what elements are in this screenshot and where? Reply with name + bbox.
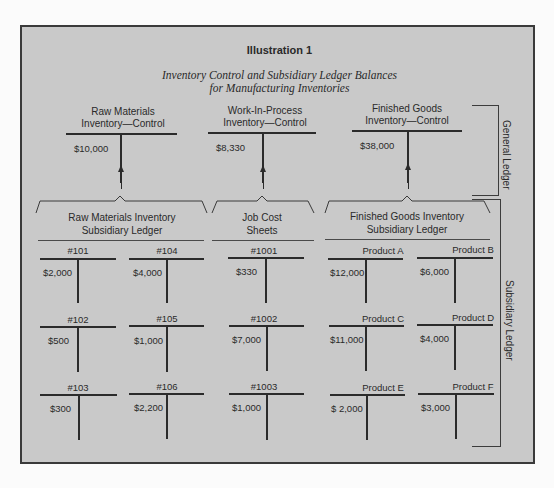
subsidiary-ledger-bracket — [472, 199, 501, 447]
divider — [38, 240, 204, 241]
general-ledger-label: General Ledger — [501, 120, 512, 190]
account-name: #1002 — [209, 313, 319, 324]
account-balance: $6,000 — [420, 266, 449, 277]
subsidiary-ledger-label: Subsidiary Ledger — [504, 280, 515, 361]
t-account-stem — [266, 325, 268, 371]
t-account-stem — [455, 393, 457, 439]
account-balance: $4,000 — [133, 267, 162, 278]
account-name: #105 — [112, 313, 222, 324]
account-balance: $300 — [50, 403, 71, 414]
account-balance: $11,000 — [330, 334, 364, 345]
account-balance: $4,000 — [420, 333, 449, 344]
account-balance: $2,200 — [134, 402, 163, 413]
account-balance: $1,000 — [232, 402, 261, 413]
t-account-stem — [366, 394, 368, 440]
divider — [212, 240, 314, 241]
group-label-raw-materials-line-1: Raw Materials Inventory — [42, 211, 202, 224]
t-account-stem — [77, 258, 79, 303]
account-balance: $12,000 — [330, 267, 364, 278]
account-balance: $3,000 — [421, 402, 450, 413]
account-balance: $ 2,000 — [331, 403, 363, 414]
t-account-stem — [166, 258, 168, 303]
account-balance: $7,000 — [232, 334, 261, 345]
t-account-stem — [166, 325, 168, 372]
t-account-stem — [365, 258, 367, 303]
account-name: #1003 — [209, 381, 319, 392]
account-name: #104 — [112, 245, 222, 256]
group-label-finished-goods-line-2: Subsidiary Ledger — [322, 223, 492, 236]
account-balance: $330 — [236, 266, 257, 277]
group-label-job-cost-line-2: Sheets — [217, 224, 307, 237]
group-label-raw-materials-line-2: Subsidiary Ledger — [42, 224, 202, 237]
group-label-finished-goods-line-1: Finished Goods Inventory — [322, 210, 492, 223]
t-account-stem — [166, 393, 168, 439]
illustration-panel: Illustration 1 Inventory Control and Sub… — [20, 25, 535, 464]
divider — [325, 239, 490, 240]
general-ledger-bracket — [472, 105, 499, 196]
t-account-stem — [454, 324, 456, 370]
t-account-stem — [365, 325, 367, 371]
account-balance: $500 — [48, 335, 69, 346]
account-name: #106 — [112, 381, 222, 392]
t-account-stem — [77, 326, 79, 372]
group-label-job-cost-line-1: Job Cost — [217, 211, 307, 224]
t-account-stem — [266, 393, 268, 440]
t-account-stem — [454, 257, 456, 303]
t-account-stem — [78, 394, 80, 440]
account-balance: $1,000 — [134, 335, 163, 346]
account-name: #1001 — [209, 245, 319, 256]
t-account-stem — [265, 257, 267, 303]
account-balance: $2,000 — [43, 267, 72, 278]
